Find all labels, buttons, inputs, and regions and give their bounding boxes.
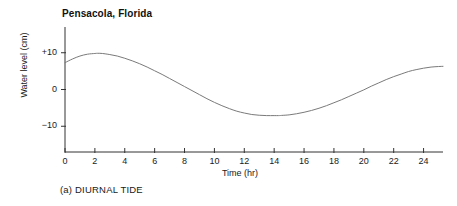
x-tick-label: 0 [55, 156, 75, 166]
x-tick-label: 8 [175, 156, 195, 166]
plot-area [0, 0, 457, 206]
x-tick-label: 16 [294, 156, 314, 166]
y-tick-label: −10 [27, 120, 57, 130]
axis-lines [65, 27, 443, 152]
tide-curve-line [65, 53, 443, 115]
x-tick-label: 4 [115, 156, 135, 166]
x-tick-label: 24 [414, 156, 434, 166]
tide-figure: Pensacola, Florida Water level (cm) Time… [0, 0, 457, 206]
x-tick-label: 20 [354, 156, 374, 166]
y-tick-label: +10 [27, 47, 57, 57]
x-tick-label: 6 [145, 156, 165, 166]
x-tick-label: 12 [234, 156, 254, 166]
x-tick-label: 14 [264, 156, 284, 166]
x-tick-label: 2 [85, 156, 105, 166]
x-tick-label: 18 [324, 156, 344, 166]
x-tick-label: 22 [384, 156, 404, 166]
y-tick-label: 0 [27, 84, 57, 94]
x-tick-label: 10 [204, 156, 224, 166]
